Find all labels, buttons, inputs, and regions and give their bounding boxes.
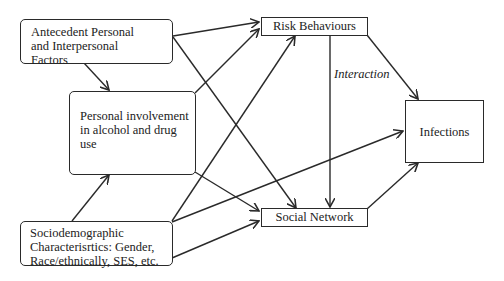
node-antecedent-line-2: and Interpersonal — [31, 39, 172, 53]
node-sociodemographic: Sociodemographic Characterisrtics: Gende… — [20, 221, 173, 266]
node-personal-involvement-line-1: Personal involvement — [80, 109, 195, 123]
node-antecedent-line-3: Factors — [31, 53, 172, 67]
edge-personal-involvement-to-risk-behaviours — [195, 29, 259, 93]
edge-social-network-to-infections — [367, 163, 418, 209]
edge-antecedent-to-risk-behaviours — [173, 22, 259, 36]
node-antecedent-factors: Antecedent Personal and Interpersonal Fa… — [20, 19, 173, 64]
node-sociodemographic-line-3: Race/ethnically, SES, etc. — [30, 254, 172, 268]
node-risk-behaviours-label: Risk Behaviours — [262, 18, 367, 34]
edge-label-interaction: Interaction — [334, 67, 390, 82]
node-sociodemographic-line-1: Sociodemographic — [30, 226, 172, 240]
node-antecedent-line-1: Antecedent Personal — [31, 25, 172, 39]
edge-sociodemographic-to-personal-involvement — [72, 175, 109, 221]
node-infections: Infections — [405, 100, 484, 163]
node-personal-involvement-line-3: use — [80, 137, 195, 151]
node-risk-behaviours: Risk Behaviours — [261, 17, 368, 36]
node-personal-involvement-line-2: in alcohol and drug — [80, 123, 195, 137]
node-social-network-label: Social Network — [262, 209, 367, 225]
node-social-network: Social Network — [261, 208, 368, 227]
node-infections-label: Infections — [420, 125, 470, 139]
edge-antecedent-to-personal-involvement — [84, 63, 109, 90]
edge-sociodemographic-to-social-network — [172, 221, 259, 258]
node-sociodemographic-line-2: Characterisrtics: Gender, — [30, 240, 172, 254]
node-personal-involvement: Personal involvement in alcohol and drug… — [69, 91, 196, 175]
